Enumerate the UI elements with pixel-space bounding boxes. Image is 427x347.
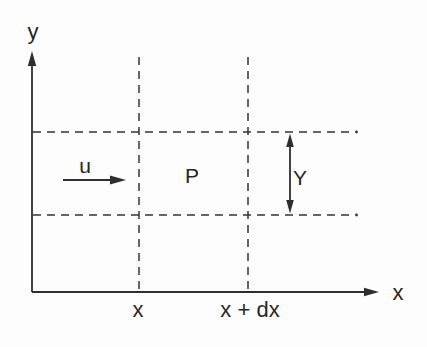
height-label: Y	[293, 166, 307, 189]
diagram-canvas: y x u P Y x x + dx	[0, 0, 427, 347]
upper-boundary-end-dot	[355, 131, 358, 134]
x-tick-label: x	[133, 297, 144, 322]
velocity-arrowhead-icon	[110, 176, 126, 185]
point-label: P	[185, 164, 199, 187]
x-axis-label: x	[393, 280, 404, 305]
y-axis-arrowhead-icon	[28, 51, 36, 66]
velocity-label: u	[79, 154, 91, 177]
x-plus-dx-tick-label: x + dx	[220, 297, 279, 322]
y-axis-label: y	[28, 19, 39, 44]
x-axis-arrowhead-icon	[364, 288, 379, 296]
lower-boundary-end-dot	[355, 214, 358, 217]
height-extent-bottom-arrowhead-icon	[286, 200, 294, 214]
height-extent-top-arrowhead-icon	[286, 134, 294, 148]
flow-region-diagram: y x u P Y x x + dx	[0, 0, 427, 347]
